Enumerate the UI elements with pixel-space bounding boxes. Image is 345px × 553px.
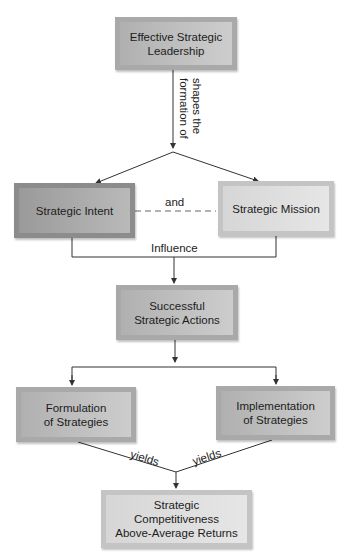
edge-label-and: and bbox=[165, 196, 184, 208]
node-label: Strategic Mission bbox=[232, 202, 320, 216]
edge-label-influence: Influence bbox=[151, 242, 198, 254]
node-label: Effective Strategic Leadership bbox=[130, 30, 222, 58]
node-implementation-of-strategies: Implementation of Strategies bbox=[216, 386, 335, 440]
node-label: Strategic Competitiveness Above-Average … bbox=[115, 498, 238, 540]
node-label: Successful Strategic Actions bbox=[134, 299, 220, 327]
node-formulation-of-strategies: Formulation of Strategies bbox=[16, 387, 136, 442]
node-successful-strategic-actions: Successful Strategic Actions bbox=[116, 285, 238, 340]
edge-label-shapes: shapes the formation of bbox=[177, 78, 203, 139]
node-label: Formulation of Strategies bbox=[44, 401, 109, 429]
connector-lines bbox=[0, 0, 345, 553]
node-strategic-intent: Strategic Intent bbox=[14, 183, 135, 238]
node-label: Strategic Intent bbox=[36, 204, 113, 218]
node-strategic-competitiveness: Strategic Competitiveness Above-Average … bbox=[101, 490, 252, 548]
node-label: Implementation of Strategies bbox=[236, 399, 315, 427]
node-effective-strategic-leadership: Effective Strategic Leadership bbox=[115, 17, 237, 70]
node-strategic-mission: Strategic Mission bbox=[218, 181, 334, 236]
